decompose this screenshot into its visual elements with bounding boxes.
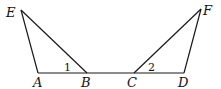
point-label-c: C [127, 75, 137, 89]
point-label-e: E [5, 5, 16, 20]
segment-ea [21, 10, 38, 73]
point-label-b: B [80, 75, 91, 89]
point-label-d: D [177, 75, 189, 89]
angle-label-2: 2 [148, 61, 155, 74]
geometry-diagram: E A B C D F 1 2 [0, 0, 221, 89]
segment-df [184, 9, 201, 73]
segment-eb [21, 10, 87, 73]
point-label-a: A [32, 75, 42, 89]
angle-label-1: 1 [64, 61, 71, 74]
segment-cf [134, 9, 201, 73]
point-label-f: F [202, 3, 213, 18]
